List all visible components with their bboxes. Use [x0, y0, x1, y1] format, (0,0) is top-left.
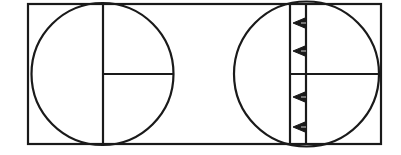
right-circle-group	[234, 2, 379, 147]
left-circle-group	[32, 3, 175, 145]
diagram-canvas	[0, 0, 401, 155]
